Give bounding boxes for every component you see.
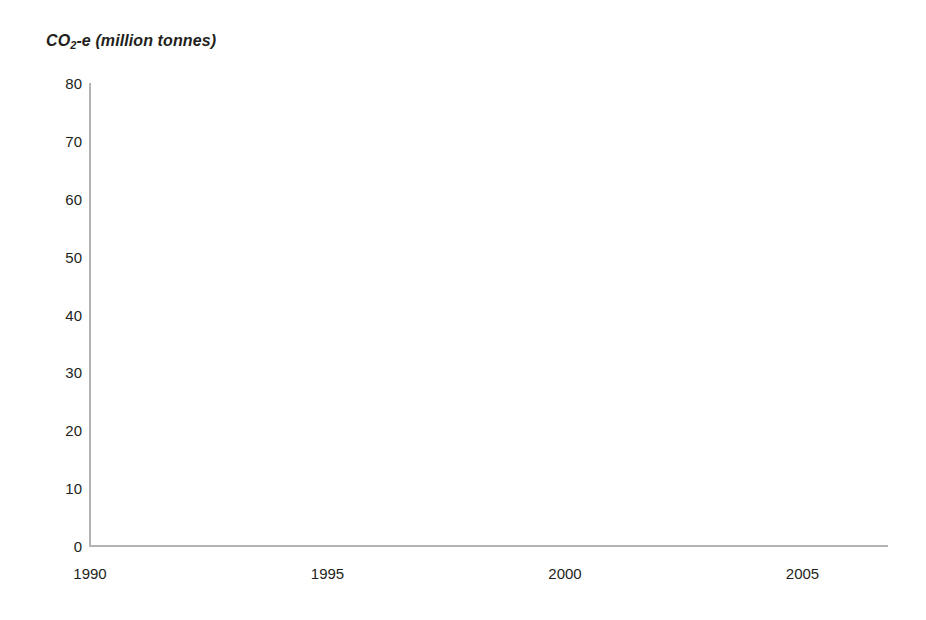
- x-axis-tick-labels: 1990199520002005: [0, 0, 926, 620]
- x-tick-label: 2005: [743, 566, 863, 581]
- x-tick-label: 1995: [268, 566, 388, 581]
- x-tick-label: 1990: [30, 566, 150, 581]
- x-tick-label: 2000: [505, 566, 625, 581]
- chart-figure: CO2-e (million tonnes) 80706050403020100…: [0, 0, 926, 620]
